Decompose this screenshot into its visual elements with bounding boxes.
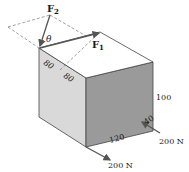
dim-100: 100 bbox=[156, 93, 171, 102]
block-diagram: F2 F1 θ 80 80 100 120 40 200 N 200 N bbox=[0, 0, 189, 172]
bottom-force-label: 200 N bbox=[108, 161, 133, 170]
f2-label: F2 bbox=[47, 3, 59, 16]
theta-label: θ bbox=[46, 34, 52, 44]
right-force-label: 200 N bbox=[159, 137, 184, 146]
bottom-force-arrow bbox=[86, 147, 110, 160]
